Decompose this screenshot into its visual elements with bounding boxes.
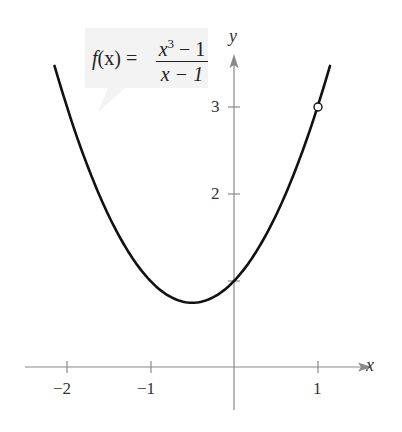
- formula-lhs: f(x) =: [92, 47, 137, 70]
- formula-fraction: x3 − 1 x − 1: [156, 33, 208, 86]
- num-x: x: [159, 38, 168, 60]
- x-tick-label-neg1: −1: [137, 379, 155, 399]
- num-rest: − 1: [174, 38, 205, 60]
- y-axis-label: y: [229, 26, 237, 47]
- function-formula: f(x) = x3 − 1 x − 1: [88, 30, 206, 86]
- formula-numerator: x3 − 1: [156, 33, 208, 62]
- x-tick-label-1: 1: [313, 379, 322, 399]
- x-axis-label: x: [366, 355, 374, 376]
- function-curve: [55, 66, 331, 303]
- y-tick-label-2: 2: [211, 184, 220, 204]
- formula-denominator: x − 1: [156, 62, 208, 86]
- y-tick-label-3: 3: [211, 97, 220, 117]
- formula-paren: (x) =: [98, 47, 138, 69]
- x-tick-label-neg2: −2: [53, 379, 71, 399]
- open-circle-hole: [314, 103, 322, 111]
- den-text: x − 1: [161, 63, 203, 85]
